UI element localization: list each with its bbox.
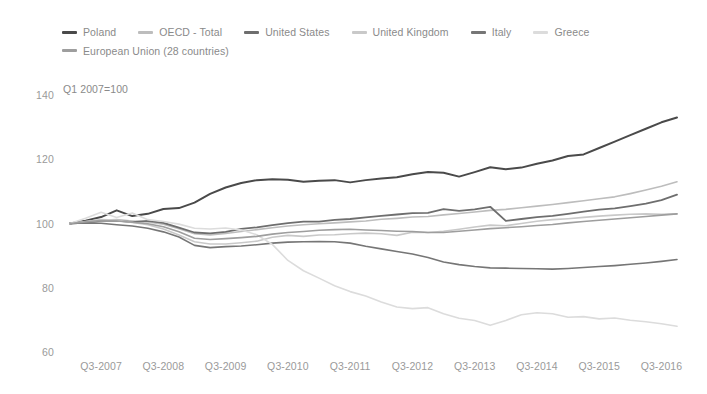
legend-item-label: OECD - Total	[159, 27, 222, 38]
legend-item-united-states[interactable]: United States	[244, 27, 329, 38]
x-axis-tick-label: Q3-2014	[516, 360, 558, 372]
legend-item-european-union-28-countries[interactable]: European Union (28 countries)	[62, 46, 229, 57]
y-axis-tick-label: 140	[36, 89, 54, 101]
legend-swatch-icon	[244, 31, 259, 34]
legend-swatch-icon	[62, 49, 77, 52]
legend-item-label: United Kingdom	[373, 27, 449, 38]
legend-item-label: European Union (28 countries)	[83, 46, 229, 57]
x-axis-tick-label: Q3-2012	[392, 360, 434, 372]
legend-swatch-icon	[471, 31, 486, 34]
legend-item-label: Italy	[492, 27, 512, 38]
legend-swatch-icon	[138, 31, 153, 34]
gdp-index-line-chart: PolandOECD - TotalUnited StatesUnited Ki…	[0, 0, 707, 394]
x-axis-tick-label: Q3-2007	[80, 360, 122, 372]
legend-item-poland[interactable]: Poland	[62, 27, 116, 38]
legend-item-label: Poland	[83, 27, 116, 38]
legend-item-label: United States	[265, 27, 329, 38]
legend-item-oecd-total[interactable]: OECD - Total	[138, 27, 222, 38]
series-line-united-kingdom	[70, 214, 677, 244]
x-axis-tick-label: Q3-2008	[143, 360, 185, 372]
legend-item-italy[interactable]: Italy	[471, 27, 512, 38]
x-axis-tick-label: Q3-2009	[205, 360, 247, 372]
x-axis-tick-label: Q3-2015	[578, 360, 620, 372]
legend-swatch-icon	[352, 31, 367, 34]
x-axis-tick-label: Q3-2011	[330, 360, 371, 372]
x-axis-tick-label: Q3-2016	[641, 360, 683, 372]
x-axis-labels: Q3-2007Q3-2008Q3-2009Q3-2010Q3-2011Q3-20…	[70, 360, 677, 378]
y-axis-tick-label: 120	[36, 153, 54, 165]
y-axis-tick-label: 60	[42, 346, 54, 358]
series-line-greece	[70, 212, 677, 326]
x-axis-tick-label: Q3-2013	[454, 360, 496, 372]
legend-swatch-icon	[533, 31, 548, 34]
legend-item-greece[interactable]: Greece	[533, 27, 589, 38]
series-lines	[70, 95, 677, 352]
y-axis-tick-label: 100	[36, 218, 54, 230]
chart-subtitle: Q1 2007=100	[63, 83, 128, 95]
y-axis-tick-label: 80	[42, 282, 54, 294]
x-axis-tick-label: Q3-2010	[267, 360, 309, 372]
plot-area	[70, 95, 677, 352]
y-axis-labels: 1401201008060	[0, 95, 62, 352]
series-line-poland	[70, 117, 677, 223]
legend-item-united-kingdom[interactable]: United Kingdom	[352, 27, 449, 38]
chart-legend: PolandOECD - TotalUnited StatesUnited Ki…	[62, 27, 682, 56]
legend-item-label: Greece	[554, 27, 589, 38]
legend-swatch-icon	[62, 31, 77, 34]
